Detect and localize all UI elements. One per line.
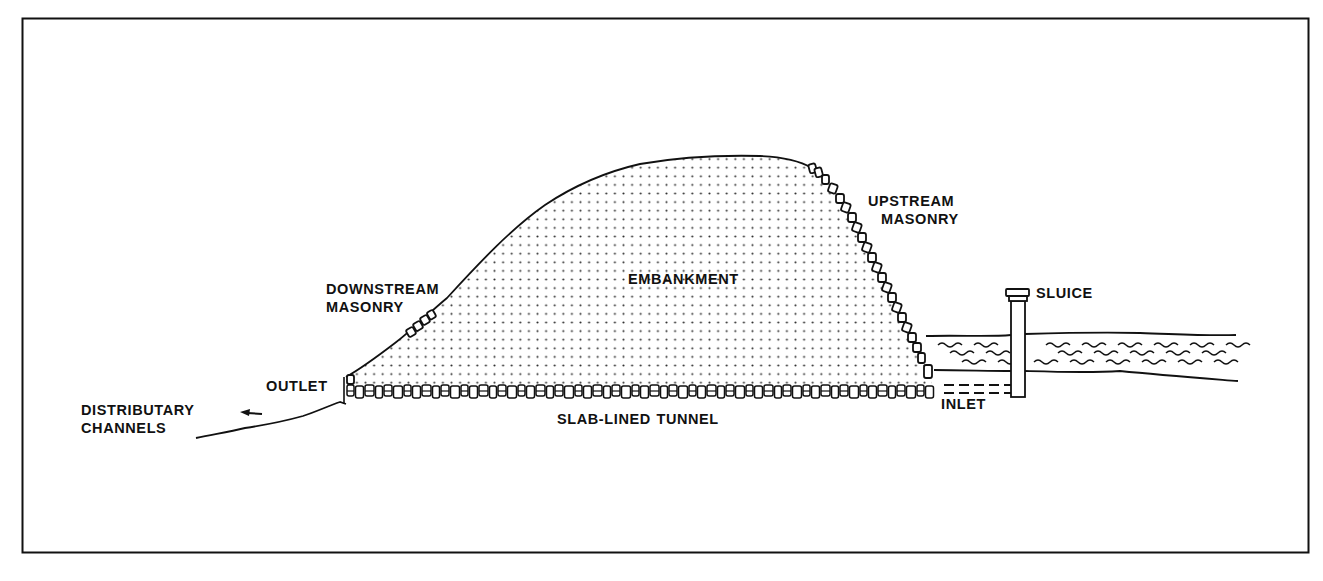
embankment-fill xyxy=(340,150,940,390)
label-slab-lined-tunnel: SLAB-LINED TUNNEL xyxy=(557,411,719,428)
label-outlet: OUTLET xyxy=(266,378,328,395)
dam-cross-section xyxy=(0,0,1323,581)
label-embankment: EMBANKMENT xyxy=(628,271,739,288)
label-downstream-masonry-2: MASONRY xyxy=(326,299,404,316)
label-sluice: SLUICE xyxy=(1036,285,1093,302)
sluice-column xyxy=(1006,289,1029,397)
label-distributary-1: DISTRIBUTARY xyxy=(81,402,195,419)
label-upstream-masonry-2: MASONRY xyxy=(881,211,959,228)
label-distributary-2: CHANNELS xyxy=(81,420,166,437)
tunnel-slabs xyxy=(347,385,934,398)
water-waves xyxy=(938,343,1250,364)
label-upstream-masonry-1: UPSTREAM xyxy=(868,193,954,210)
reservoir xyxy=(926,333,1250,381)
arrow-left-icon xyxy=(240,409,262,416)
label-inlet: INLET xyxy=(941,396,986,413)
inlet-dashes xyxy=(944,385,1011,393)
label-downstream-masonry-1: DOWNSTREAM xyxy=(326,281,439,298)
ground-line-downstream xyxy=(196,402,346,438)
